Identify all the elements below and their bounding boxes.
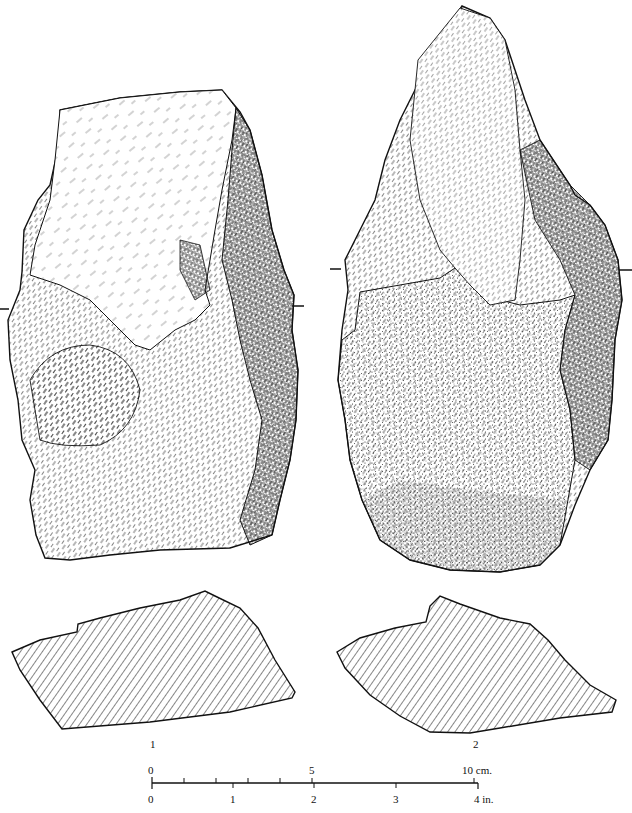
artifact-2-drawing	[330, 6, 632, 572]
scale-in-label-4: 4 in.	[474, 793, 494, 805]
stone-tool-illustration	[0, 0, 632, 813]
cross-section-2	[337, 596, 616, 733]
scale-in-label-2: 2	[311, 793, 317, 805]
scale-cm-label-0: 0	[148, 764, 154, 776]
figure-label-1: 1	[150, 738, 156, 750]
scale-in-label-1: 1	[230, 793, 236, 805]
scale-bar	[152, 777, 478, 789]
scale-cm-label-10: 10 cm.	[462, 764, 492, 776]
cross-section-1	[12, 591, 295, 729]
figure-label-2: 2	[473, 738, 479, 750]
scale-cm-label-5: 5	[309, 764, 315, 776]
scale-in-label-0: 0	[148, 793, 154, 805]
artifact-1-drawing	[0, 90, 304, 560]
scale-in-label-3: 3	[393, 793, 399, 805]
